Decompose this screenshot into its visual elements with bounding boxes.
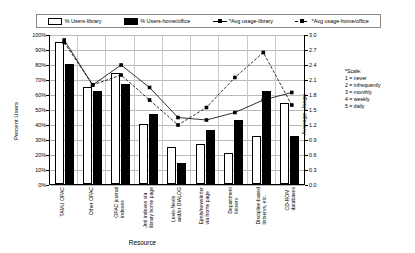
axis-tick-label: 1.5: [309, 107, 335, 113]
x-axis-category-label: Ejrnls/newslettervia home page: [200, 187, 211, 224]
data-point-marker: [119, 63, 123, 67]
legend-item-users-library: % Users-library: [48, 18, 101, 25]
gridline: [50, 185, 304, 186]
data-point-marker: [148, 86, 152, 90]
legend-item-avg-usage-library: *Avg usage-library: [213, 18, 273, 24]
axis-tick-label: 30%: [20, 137, 46, 143]
axis-tick-mark: [305, 185, 308, 186]
chart-legend: % Users-library % Users-home/office *Avg…: [36, 14, 381, 28]
data-point-marker: [148, 98, 152, 102]
x-axis-category-label: OPAC journalindexes: [115, 187, 126, 218]
axis-tick-label: 2.1: [309, 77, 335, 83]
axis-tick-label: 1.2: [309, 122, 335, 128]
data-point-marker: [176, 123, 180, 127]
dashed-line-marker-icon: [295, 19, 309, 24]
data-point-marker: [205, 118, 209, 122]
data-point-marker: [290, 103, 294, 107]
scale-annotation-title: *Scale:: [345, 68, 381, 75]
data-point-marker: [262, 51, 266, 55]
data-point-marker: [176, 116, 180, 120]
chart-figure: % Users-library % Users-home/office *Avg…: [0, 0, 415, 253]
scale-annotation: *Scale: 1 = never 2 = infrequently 3 = m…: [345, 68, 381, 110]
x-axis-title: Resource: [0, 239, 415, 246]
data-point-marker: [119, 73, 123, 77]
y-axis-title-left: Percent Users: [13, 102, 19, 140]
data-point-marker: [91, 83, 95, 87]
axis-tick-label: 0%: [20, 182, 46, 188]
legend-label: % Users-library: [65, 18, 102, 24]
x-axis-category-label: Discipline-basedlistservs, etc.: [257, 187, 268, 224]
legend-item-users-home-office: % Users-home/office: [124, 18, 190, 25]
axis-tick-label: 40%: [20, 122, 46, 128]
axis-tick-label: 0.6: [309, 152, 335, 158]
x-axis-category-label: Lexis-Nexisand/or DIALOG: [171, 187, 182, 222]
data-point-marker: [262, 98, 266, 102]
x-axis-category: CD-ROMdatabases: [277, 187, 305, 237]
x-axis-category-label: Other OPAC: [89, 187, 95, 215]
x-axis-category: TAMU OPAC: [49, 187, 77, 237]
scale-annotation-line: 5 = daily: [345, 103, 381, 110]
scale-annotation-line: 1 = never: [345, 75, 381, 82]
scale-annotation-line: 2 = infrequently: [345, 82, 381, 89]
axis-tick-label: 3.0: [309, 32, 335, 38]
axis-tick-label: 60%: [20, 92, 46, 98]
x-axis-category: Departmentlistserv: [220, 187, 248, 237]
axis-tick-mark: [46, 185, 49, 186]
white-box-icon: [48, 18, 62, 25]
plot-area: [49, 35, 305, 185]
axis-tick-label: 90%: [20, 47, 46, 53]
x-axis-category: Discipline-basedlistservs, etc.: [248, 187, 276, 237]
x-axis-category-label: Jrnl indexes vialibrary home page: [143, 187, 154, 228]
x-axis-category-label: Departmentlistserv: [228, 187, 239, 214]
x-axis-categories: TAMU OPACOther OPACOPAC journalindexesJr…: [49, 187, 305, 237]
x-axis-category-label: TAMU OPAC: [60, 187, 66, 217]
axis-tick-label: 50%: [20, 107, 46, 113]
axis-tick-label: 70%: [20, 77, 46, 83]
x-axis-category: Jrnl indexes vialibrary home page: [134, 187, 162, 237]
scale-annotation-line: 3 = monthly: [345, 89, 381, 96]
solid-line-marker-icon: [213, 19, 227, 24]
axis-tick-label: 2.7: [309, 47, 335, 53]
legend-label: *Avg usage-home/office: [312, 18, 369, 24]
legend-item-avg-usage-home-office: *Avg usage-home/office: [295, 18, 369, 24]
axis-tick-label: 10%: [20, 167, 46, 173]
data-point-marker: [290, 91, 294, 95]
axis-tick-label: 100%: [20, 32, 46, 38]
axis-tick-label: 0.9: [309, 137, 335, 143]
x-axis-category-label: CD-ROMdatabases: [285, 187, 296, 211]
axis-tick-label: 1.8: [309, 92, 335, 98]
x-axis-category: OPAC journalindexes: [106, 187, 134, 237]
data-point-marker: [233, 111, 237, 115]
legend-label: % Users-home/office: [140, 18, 190, 24]
line-series-layer: [50, 35, 306, 185]
black-box-icon: [124, 18, 138, 25]
line-avg-usage-library: [64, 40, 292, 120]
x-axis-category: Other OPAC: [77, 187, 105, 237]
line-avg-usage-home-office: [64, 43, 292, 126]
x-axis-category: Ejrnls/newslettervia home page: [191, 187, 219, 237]
data-point-marker: [62, 41, 66, 45]
x-axis-category: Lexis-Nexisand/or DIALOG: [163, 187, 191, 237]
axis-tick-label: 0.3: [309, 167, 335, 173]
axis-tick-label: 80%: [20, 62, 46, 68]
axis-tick-label: 0.0: [309, 182, 335, 188]
data-point-marker: [233, 76, 237, 80]
axis-tick-label: 20%: [20, 152, 46, 158]
data-point-marker: [205, 106, 209, 110]
axis-tick-label: 2.4: [309, 62, 335, 68]
scale-annotation-line: 4 = weekly: [345, 96, 381, 103]
legend-label: *Avg usage-library: [229, 18, 273, 24]
